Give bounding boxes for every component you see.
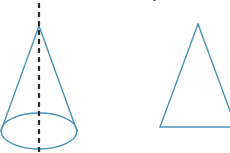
cropped-text-fragment: T — [151, 0, 158, 3]
triangle-left-side-line — [160, 24, 198, 127]
cone-figure — [1, 3, 77, 152]
triangle-figure — [160, 24, 230, 127]
triangle-right-side-line — [198, 24, 230, 127]
figure-canvas: T — [0, 0, 230, 153]
geometry-illustration — [0, 0, 230, 153]
